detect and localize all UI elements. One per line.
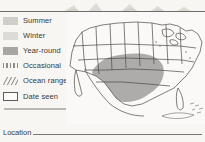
legend-label: Occasional [23, 61, 61, 70]
location-field[interactable]: Location [3, 128, 202, 137]
legend-item-year-round: Year-round [3, 43, 71, 58]
year-round-swatch-icon [3, 47, 18, 55]
caribbean-islands [162, 103, 203, 119]
legend-label: Winter [23, 31, 45, 40]
occasional-dotted-swatch-icon [3, 62, 18, 70]
location-write-in-line[interactable] [33, 134, 202, 135]
occasional-markers [155, 41, 191, 59]
summer-swatch-icon [3, 17, 18, 25]
location-label: Location [3, 128, 31, 137]
legend-item-summer: Summer [3, 13, 71, 28]
range-shading [80, 54, 164, 102]
north-america-range-map [66, 12, 205, 124]
winter-swatch-icon [3, 32, 18, 40]
legend-item-occasional: Occasional [3, 58, 71, 73]
map-legend: Summer Winter Year-round Occasional Ocea… [3, 13, 71, 105]
legend-item-ocean-range: Ocean range [3, 73, 71, 88]
legend-label: Ocean range [23, 76, 67, 85]
legend-label: Summer [23, 16, 52, 25]
legend-label: Date seen [23, 92, 58, 101]
ocean-range-hatch-swatch-icon [3, 77, 18, 85]
photo-bleed [0, 0, 205, 11]
legend-item-winter: Winter [3, 28, 71, 43]
legend-label: Year-round [23, 46, 61, 55]
legend-item-date-seen: Date seen [3, 88, 71, 105]
legend-divider [4, 108, 66, 110]
date-seen-box-icon[interactable] [3, 92, 18, 101]
range-map-page: Summer Winter Year-round Occasional Ocea… [0, 0, 205, 142]
